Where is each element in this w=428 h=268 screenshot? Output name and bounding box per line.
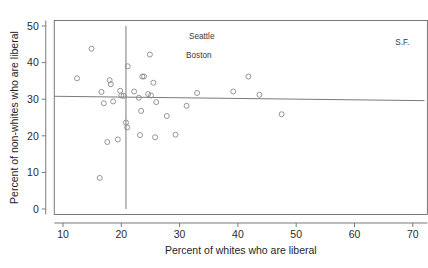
x-axis-tick-label: 20 <box>115 228 127 240</box>
data-point <box>246 74 251 79</box>
data-point <box>195 90 200 95</box>
data-point <box>101 101 106 106</box>
x-axis-tick-label: 10 <box>57 228 69 240</box>
y-axis-tick-label: 50 <box>27 20 39 32</box>
data-point <box>173 132 178 137</box>
annotation-label: Boston <box>186 51 212 60</box>
x-axis-title: Percent of whites who are liberal <box>165 244 317 256</box>
data-point <box>279 112 284 117</box>
x-axis-tick-label: 60 <box>349 228 361 240</box>
regression-line <box>54 96 424 100</box>
x-axis-tick-label: 30 <box>174 228 186 240</box>
data-point <box>147 52 152 57</box>
data-point <box>231 89 236 94</box>
data-point <box>137 133 142 138</box>
data-point <box>74 76 79 81</box>
y-axis-tick-label: 20 <box>27 130 39 142</box>
data-point <box>153 135 158 140</box>
data-point <box>164 114 169 119</box>
x-axis-tick-label: 70 <box>407 228 419 240</box>
data-point <box>97 175 102 180</box>
data-point <box>111 99 116 104</box>
data-point <box>115 137 120 142</box>
data-point <box>257 92 262 97</box>
annotation-label: S.F. <box>395 38 409 47</box>
y-axis-tick-label: 10 <box>27 166 39 178</box>
y-axis-tick-label: 30 <box>27 93 39 105</box>
x-axis-tick-label: 50 <box>290 228 302 240</box>
plot-frame <box>54 21 427 215</box>
data-point <box>151 80 156 85</box>
plot-canvas: 10203040506070Percent of whites who are … <box>0 0 428 268</box>
data-point <box>105 140 110 145</box>
x-axis-tick-label: 40 <box>232 228 244 240</box>
data-point <box>125 125 130 130</box>
data-point <box>132 89 137 94</box>
y-axis-tick-label: 0 <box>33 203 39 215</box>
scatter-plot-figure: 10203040506070Percent of whites who are … <box>0 0 428 268</box>
data-point <box>99 89 104 94</box>
data-point <box>154 100 159 105</box>
data-point <box>139 108 144 113</box>
y-axis-tick-label: 40 <box>27 56 39 68</box>
data-point <box>89 46 94 51</box>
data-point <box>184 103 189 108</box>
y-axis-title: Percent of non-whites who are liberal <box>8 31 20 204</box>
annotation-label: Seattle <box>189 32 215 41</box>
data-point <box>118 88 123 93</box>
